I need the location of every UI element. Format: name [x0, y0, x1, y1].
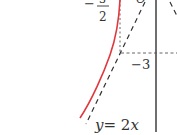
dashed-line-top-right [170, 2, 177, 16]
eq-rest: = 2 [103, 116, 130, 134]
eq-x: x [130, 116, 139, 134]
fraction-numerator: 3 [99, 0, 106, 6]
line-equation-label: y= 2x [94, 116, 139, 134]
fraction-sign: − [84, 0, 95, 11]
origin-label: O [136, 0, 146, 6]
fraction-denominator: 2 [99, 10, 107, 24]
graph: − 3 2 O −3 y= 2x [0, 0, 177, 135]
y-tick-label-minus-3: −3 [131, 57, 150, 72]
